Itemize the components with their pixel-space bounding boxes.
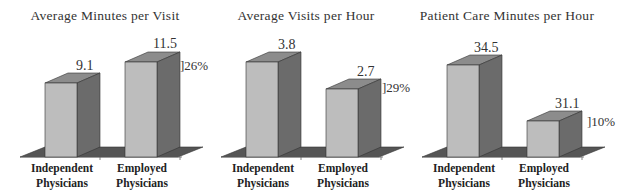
chart-title: Average Visits per Hour: [201, 8, 411, 24]
category-label: Independent Physicians: [419, 161, 509, 191]
chart-title: Average Minutes per Visit: [0, 8, 210, 24]
chart-title: Patient Care Minutes per Hour: [402, 8, 612, 24]
chart-panel-visits-per-hour: Average Visits per Hour 3.8 2.7 ]29% Ind…: [201, 0, 411, 194]
bar-value-label: 2.7: [357, 64, 375, 80]
percent-change-label: ]10%: [587, 114, 615, 130]
chart-panel-patient-care-minutes: Patient Care Minutes per Hour 34.5 31.1 …: [402, 0, 612, 194]
category-label: Independent Physicians: [17, 161, 107, 191]
bar-value-label: 11.5: [153, 36, 177, 52]
bar-independent: [246, 52, 301, 157]
bar-value-label: 3.8: [278, 37, 296, 53]
bar-value-label: 9.1: [76, 58, 94, 74]
bar-employed: [125, 52, 180, 157]
bar-employed: [527, 111, 582, 157]
category-label: Employed Physicians: [298, 161, 388, 191]
bar-independent: [45, 73, 100, 157]
bar-employed: [326, 79, 381, 157]
bar-value-label: 31.1: [555, 96, 580, 112]
category-label: Employed Physicians: [499, 161, 589, 191]
category-label: Employed Physicians: [97, 161, 187, 191]
category-label: Independent Physicians: [218, 161, 308, 191]
bar-value-label: 34.5: [474, 40, 499, 56]
bar-independent: [447, 55, 502, 157]
chart-panel-minutes-per-visit: Average Minutes per Visit 9.1 11.5 ]26% …: [0, 0, 210, 194]
